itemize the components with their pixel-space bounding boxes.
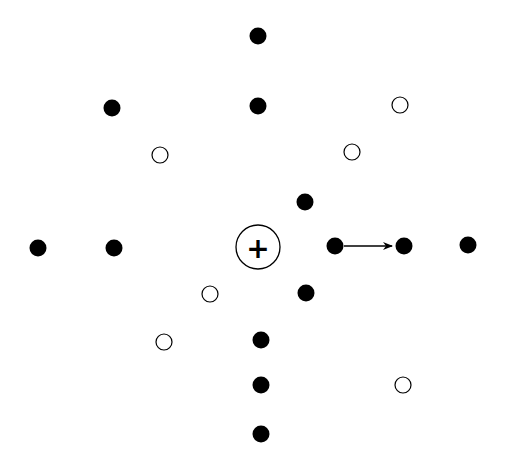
filled-dot [104, 100, 121, 117]
filled-dot [327, 238, 344, 255]
open-dot [152, 147, 168, 163]
open-dot [395, 377, 411, 393]
filled-dot [253, 332, 270, 349]
open-dot [392, 97, 408, 113]
filled-dot [250, 98, 267, 115]
open-dot [156, 334, 172, 350]
filled-dot [250, 28, 267, 45]
open-dots [152, 97, 411, 393]
dot-diagram: + [0, 0, 505, 460]
filled-dot [106, 240, 123, 257]
plus-sign: + [246, 232, 269, 265]
open-dot [344, 144, 360, 160]
positive-ion: + [236, 225, 280, 269]
filled-dot [298, 285, 315, 302]
filled-dot [30, 240, 47, 257]
open-dot [202, 286, 218, 302]
filled-dot [253, 426, 270, 443]
filled-dot [460, 237, 477, 254]
filled-dot [396, 238, 413, 255]
filled-dot [297, 194, 314, 211]
filled-dot [253, 377, 270, 394]
